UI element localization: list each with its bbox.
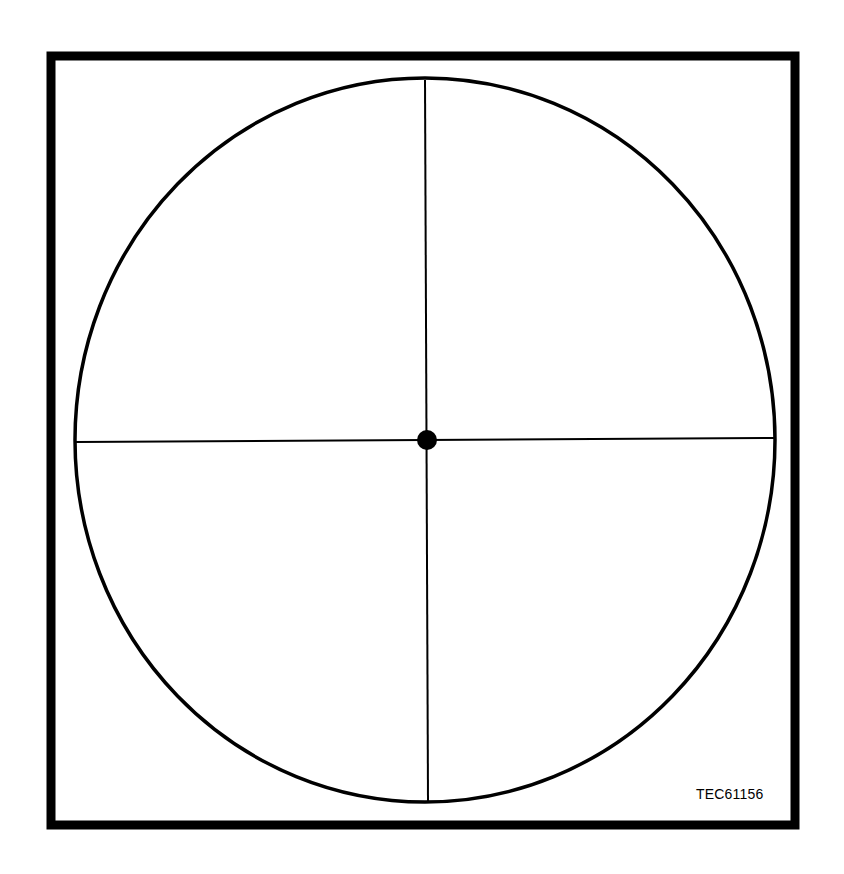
target-diagram — [0, 0, 844, 874]
reference-code-label: TEC61156 — [696, 786, 764, 802]
diagram-canvas: TEC61156 — [0, 0, 844, 874]
center-dot-icon — [417, 430, 437, 450]
